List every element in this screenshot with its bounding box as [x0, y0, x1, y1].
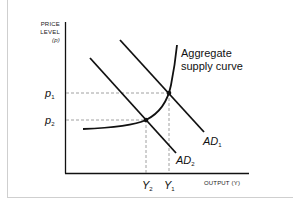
- aggregate-supply-demand-diagram: PRICE LEVEL (p) OUTPUT (Y) p1 p2 Y2 Y1 A…: [0, 0, 293, 200]
- p2-label: p2: [44, 114, 55, 127]
- y2-label: Y2: [142, 179, 153, 192]
- ad2-label: AD2: [175, 154, 195, 167]
- equilibrium-point-2: [144, 118, 149, 123]
- y-axis-label-line-2: LEVEL: [40, 29, 60, 35]
- p1-label: p1: [44, 87, 55, 100]
- aggregate-supply-label-line-2: supply curve: [181, 60, 243, 72]
- x-axis-label: OUTPUT (Y): [204, 180, 240, 186]
- y-axis-label-line-1: PRICE: [41, 21, 60, 27]
- aggregate-supply-label-line-1: Aggregate: [181, 47, 232, 59]
- y-axis-label-line-3: (p): [52, 37, 60, 43]
- y1-label: Y1: [164, 179, 175, 192]
- ad1-label: AD1: [202, 135, 222, 148]
- equilibrium-point-1: [167, 91, 172, 96]
